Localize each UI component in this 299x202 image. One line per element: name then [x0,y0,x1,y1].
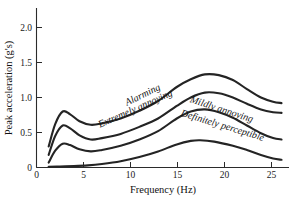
x-tick-label-0: 0 [34,170,39,180]
x-tick-label-15: 15 [173,170,183,180]
x-axis-tick-labels: 0 5 10 15 20 25 [34,170,276,180]
y-axis-tick-labels: 2.0 1.5 1.0 0.5 0 [20,23,32,173]
chart-figure: 2.0 1.5 1.0 0.5 0 0 5 10 15 20 25 Freque… [0,0,299,202]
x-tick-label-10: 10 [126,170,136,180]
y-tick-label-0.5: 0.5 [20,128,32,138]
x-tick-label-25: 25 [267,170,277,180]
y-tick-label-1.0: 1.0 [20,93,32,103]
x-tick-label-5: 5 [81,170,86,180]
y-tick-label-2.0: 2.0 [20,23,32,33]
x-axis-title: Frequency (Hz) [130,184,197,196]
x-tick-label-20: 20 [220,170,230,180]
y-axis-ticks [37,28,43,168]
chart-canvas: 2.0 1.5 1.0 0.5 0 0 5 10 15 20 25 Freque… [0,0,299,202]
y-tick-label-1.5: 1.5 [20,58,32,68]
y-tick-label-0: 0 [27,163,32,173]
y-axis-title: Peak acceleration (g's) [3,40,15,135]
